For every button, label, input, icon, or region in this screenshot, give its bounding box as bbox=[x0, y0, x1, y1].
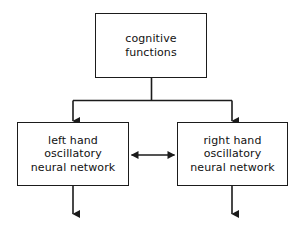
diagram-canvas: cognitive functions left hand oscillator… bbox=[0, 0, 305, 225]
node-right-hand-network-label: right hand oscillatory neural network bbox=[190, 134, 275, 175]
node-right-hand-oscillatory-neural-network: right hand oscillatory neural network bbox=[177, 122, 288, 186]
node-cognitive-functions: cognitive functions bbox=[95, 13, 207, 78]
node-cognitive-functions-label: cognitive functions bbox=[125, 32, 177, 59]
node-left-hand-oscillatory-neural-network: left hand oscillatory neural network bbox=[17, 122, 129, 186]
node-left-hand-network-label: left hand oscillatory neural network bbox=[31, 134, 116, 175]
